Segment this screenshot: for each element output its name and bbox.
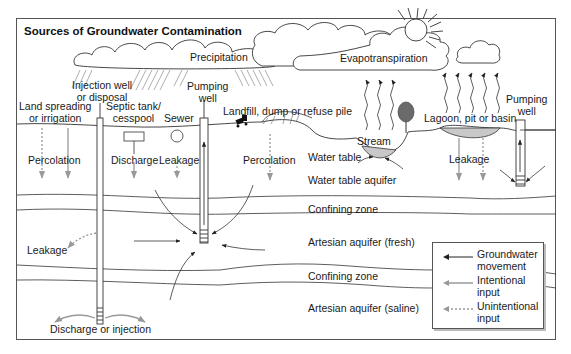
arrow-black-solid-icon — [437, 251, 477, 263]
legend-item-unintentional: Unintentional input — [433, 300, 543, 328]
septic-tank-icon — [124, 132, 144, 141]
diagram-title: Sources of Groundwater Contamination — [24, 25, 242, 37]
artesian-fresh-label: Artesian aquifer (fresh) — [308, 236, 415, 248]
legend: Groundwater movement Intentional input U… — [432, 242, 544, 329]
water-table-label: Water table — [308, 151, 361, 163]
evapotranspiration-label: Evapotranspiration — [340, 52, 428, 64]
landfill-label: Landfill, dump or refuse pile — [223, 105, 352, 117]
leakage-injection-label: Leakage — [27, 244, 67, 256]
confining-zone-1-label: Confining zone — [308, 203, 378, 215]
legend-item-groundwater: Groundwater movement — [433, 248, 543, 276]
discharge-label: Discharge — [111, 154, 158, 166]
arrow-gray-dashed-icon — [437, 303, 477, 315]
pumping-well-left-label: Pumping well — [187, 80, 228, 104]
lagoon-label: Lagoon, pit or basin — [424, 112, 516, 124]
pumping-well-right-label: Pumping well — [506, 93, 547, 117]
legend-item-intentional: Intentional input — [433, 274, 543, 302]
arrow-gray-solid-icon — [437, 277, 477, 289]
stream-label: Stream — [357, 135, 391, 147]
water-table-aquifer-label: Water table aquifer — [308, 174, 396, 186]
discharge-injection-label: Discharge or injection — [50, 323, 151, 335]
leakage-sewer-label: Leakage — [159, 154, 199, 166]
leakage-lagoon-label: Leakage — [449, 153, 489, 165]
sewer-label: Sewer — [164, 112, 194, 124]
percolation-landfill-label: Percolation — [243, 154, 296, 166]
sewer-pipe-icon — [171, 130, 183, 142]
confining-zone-2-label: Confining zone — [308, 270, 378, 282]
artesian-saline-label: Artesian aquifer (saline) — [308, 302, 419, 314]
injection-well — [97, 103, 103, 324]
pumping-well-left — [200, 100, 208, 243]
percolation-left-label: Percolation — [28, 154, 81, 166]
land-spreading-label: Land spreading or irrigation — [19, 100, 91, 124]
precipitation-label: Precipitation — [190, 51, 248, 63]
septic-tank-label: Septic tank/ cesspool — [106, 100, 161, 124]
